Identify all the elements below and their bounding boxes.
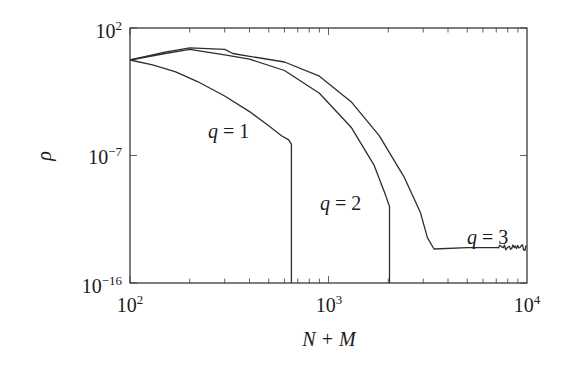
y-axis-title: ρ xyxy=(33,151,56,162)
curve-label-q3: q = 3 xyxy=(467,226,508,249)
x-tick-label-left: 102 xyxy=(117,292,144,316)
curve-label-q2: q = 2 xyxy=(320,192,361,215)
x-tick-label-right: 104 xyxy=(514,292,541,316)
x-tick-label-middle: 103 xyxy=(316,292,343,316)
curve-label-q1: q = 1 xyxy=(208,120,249,143)
curve-q2 xyxy=(130,49,390,283)
y-tick-label-top: 102 xyxy=(96,18,123,42)
y-tick-label-middle: 10−7 xyxy=(88,144,122,168)
x-axis-title: N + M xyxy=(301,328,357,350)
curve-q1 xyxy=(130,60,291,283)
log-log-chart: 102 10−7 10−16 102 103 104 N + M ρ q = 1… xyxy=(0,0,570,366)
